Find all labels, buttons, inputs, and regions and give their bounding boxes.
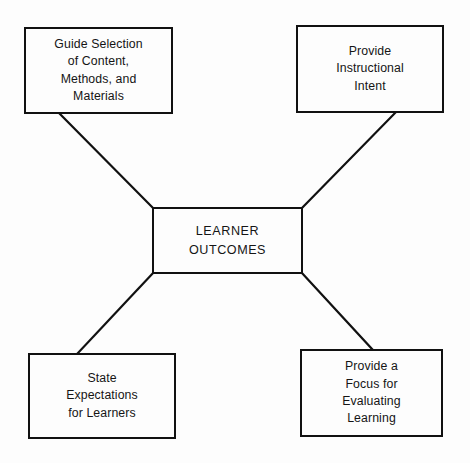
connector-bottom-right <box>302 273 372 349</box>
connector-top-left <box>59 113 153 208</box>
node-learner-outcomes: LEARNER OUTCOMES <box>152 207 303 274</box>
diagram-canvas: Guide Selection of Content, Methods, and… <box>0 0 470 463</box>
node-label-guide-selection: Guide Selection of Content, Methods, and… <box>48 36 148 106</box>
node-label-instructional-intent: Provide Instructional Intent <box>330 43 410 95</box>
node-state-expectations: State Expectations for Learners <box>28 353 176 439</box>
node-instructional-intent: Provide Instructional Intent <box>296 25 444 113</box>
node-label-learner-outcomes: LEARNER OUTCOMES <box>183 222 272 259</box>
node-evaluating-learning: Provide a Focus for Evaluating Learning <box>300 349 443 437</box>
node-label-state-expectations: State Expectations for Learners <box>60 370 144 422</box>
connector-bottom-left <box>78 273 153 353</box>
node-guide-selection: Guide Selection of Content, Methods, and… <box>24 27 173 114</box>
node-label-evaluating-learning: Provide a Focus for Evaluating Learning <box>336 358 406 428</box>
connector-top-right <box>302 112 396 208</box>
